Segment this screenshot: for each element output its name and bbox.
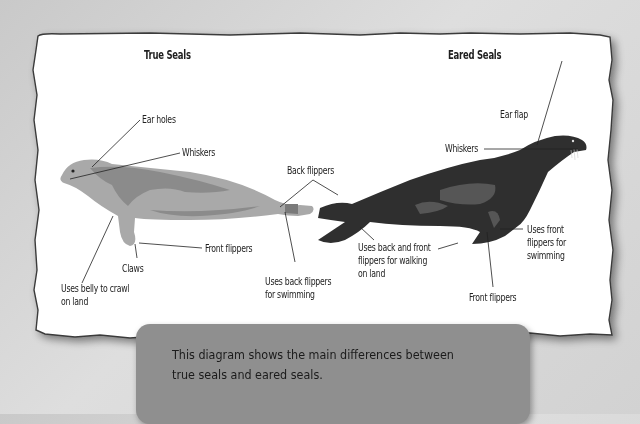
- label-back-swim: Uses back flippers for swimming: [265, 275, 331, 301]
- label-ear-flap: Ear flap: [500, 108, 528, 121]
- label-true-front-flippers: Front flippers: [205, 242, 252, 255]
- label-ear-holes: Ear holes: [142, 113, 176, 126]
- label-eared-whiskers: Whiskers: [445, 142, 478, 155]
- label-front-swim-line1: Uses front: [527, 223, 566, 236]
- label-front-swim: Uses front flippers for swimming: [527, 223, 566, 262]
- label-walk-land-line3: on land: [358, 267, 431, 280]
- label-eared-front-flippers: Front flippers: [469, 291, 516, 304]
- label-back-flippers: Back flippers: [287, 164, 334, 177]
- true-seals-title: True Seals: [144, 49, 191, 62]
- label-claws: Claws: [122, 262, 143, 275]
- label-back-swim-line2: for swimming: [265, 288, 331, 301]
- label-front-swim-line2: flippers for: [527, 236, 566, 249]
- label-belly-crawl: Uses belly to crawl on land: [61, 282, 129, 308]
- caption-box: This diagram shows the main differences …: [136, 324, 530, 424]
- eared-seals-title: Eared Seals: [448, 49, 501, 62]
- caption-text: This diagram shows the main differences …: [172, 345, 499, 385]
- label-belly-crawl-line1: Uses belly to crawl: [61, 282, 129, 295]
- label-walk-land: Uses back and front flippers for walking…: [358, 241, 431, 280]
- label-walk-land-line1: Uses back and front: [358, 241, 431, 254]
- label-walk-land-line2: flippers for walking: [358, 254, 431, 267]
- caption-line-2: true seals and eared seals.: [172, 365, 499, 385]
- label-back-swim-line1: Uses back flippers: [265, 275, 331, 288]
- label-true-whiskers: Whiskers: [182, 146, 215, 159]
- label-front-swim-line3: swimming: [527, 249, 566, 262]
- label-belly-crawl-line2: on land: [61, 295, 129, 308]
- caption-line-1: This diagram shows the main differences …: [172, 345, 499, 365]
